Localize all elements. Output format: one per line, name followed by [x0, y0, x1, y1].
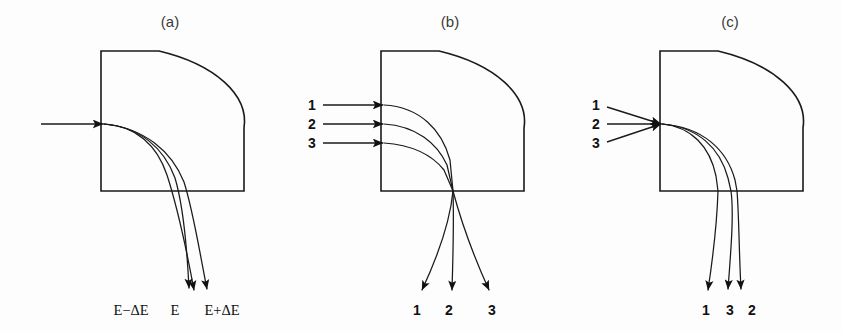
panel-b-entry-label-2: 2 — [308, 116, 316, 132]
panel-c-trajectory-2 — [662, 124, 741, 289]
panel-b-trajectory-1 — [384, 105, 453, 290]
panel-b-entry-label-3: 3 — [308, 135, 316, 151]
panel-a-exit-label-low: E−ΔE — [113, 302, 148, 318]
panel-b-trajectory-2 — [384, 124, 453, 290]
panel-a: (a) E−ΔE E E+ΔE — [41, 13, 245, 318]
panel-c-exit-label-1: 1 — [702, 302, 710, 318]
panel-b-caption: (b) — [441, 13, 459, 30]
panel-b-exit-label-3: 3 — [488, 302, 496, 318]
panel-a-trajectory-high-energy — [104, 124, 207, 289]
panel-c-entry-label-2: 2 — [592, 116, 600, 132]
panel-a-trajectory-low-energy — [104, 124, 194, 290]
panel-c-incoming-ray-3 — [607, 124, 661, 142]
panel-b: (b) 1 2 3 1 2 3 — [308, 13, 524, 318]
panel-b-trajectory-3 — [384, 143, 489, 290]
panel-c-trajectory-3 — [662, 124, 732, 289]
panel-c-exit-label-3: 3 — [726, 302, 734, 318]
panel-a-caption: (a) — [161, 13, 179, 30]
panel-c-caption: (c) — [721, 13, 739, 30]
sector-ray-diagram: (a) E−ΔE E E+ΔE (b) 1 2 3 1 2 — [0, 0, 842, 331]
panel-b-entry-label-1: 1 — [308, 97, 316, 113]
panel-c-trajectory-1 — [662, 124, 718, 290]
panel-c-entry-label-3: 3 — [592, 135, 600, 151]
panel-b-sector-boundary — [381, 51, 525, 191]
panel-c-incoming-ray-1 — [607, 107, 661, 124]
panel-c-exit-label-2: 2 — [748, 302, 756, 318]
panel-c-entry-label-1: 1 — [592, 97, 600, 113]
panel-a-sector-boundary — [101, 51, 245, 191]
figure-root: (a) E−ΔE E E+ΔE (b) 1 2 3 1 2 — [0, 0, 842, 331]
panel-a-exit-label-nominal: E — [171, 302, 180, 318]
panel-c: (c) 1 2 3 1 3 2 — [592, 13, 803, 318]
panel-b-exit-label-1: 1 — [413, 302, 421, 318]
panel-a-exit-label-high: E+ΔE — [204, 302, 239, 318]
panel-b-exit-label-2: 2 — [445, 302, 453, 318]
